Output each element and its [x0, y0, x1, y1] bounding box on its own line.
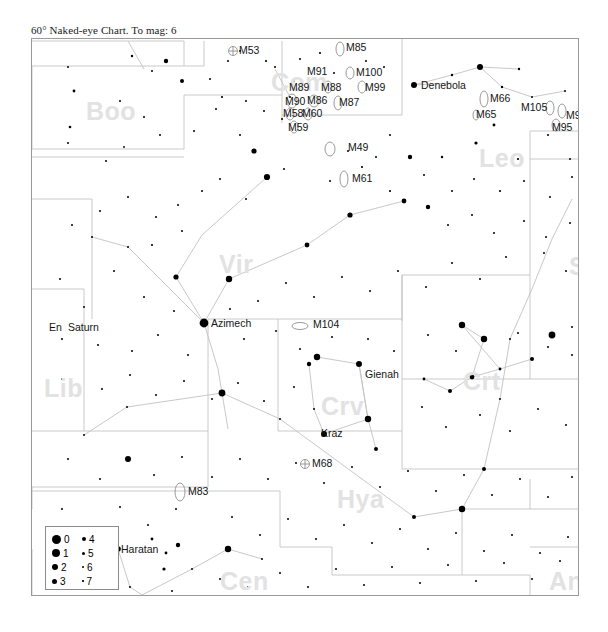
star-label-gienah: Gienah	[365, 368, 399, 380]
dso-label-m95: M95	[552, 121, 572, 133]
constellation-label-boo: Boo	[86, 97, 136, 126]
constellation-label-ant: Ant	[549, 567, 579, 596]
legend-entry-mag2: 2	[52, 562, 82, 573]
star-chart: 60° Naked-eye Chart. To mag: 6	[0, 0, 608, 632]
star-label-azimech: Azimech	[211, 317, 251, 329]
legend-dot-mag1	[52, 549, 60, 557]
constellation-label-cen: Cen	[220, 567, 269, 596]
legend-entry-mag4: 4	[82, 534, 112, 545]
dso-label-m58: M58	[283, 107, 303, 119]
legend-row: 0 4	[52, 532, 112, 546]
legend-dot-mag6	[82, 566, 84, 568]
legend-label-mag4: 4	[89, 534, 95, 545]
dso-label-m86: M86	[307, 94, 327, 106]
legend-entry-mag5: 5	[82, 548, 112, 559]
star-label-en: En	[49, 321, 62, 333]
dso-label-m91: M91	[307, 65, 327, 77]
dso-label-m89: M89	[289, 81, 309, 93]
legend-label-mag6: 6	[87, 562, 93, 573]
dso-label-m49: M49	[348, 141, 368, 153]
legend-dot-mag0	[52, 535, 61, 544]
legend-label-mag3: 3	[60, 576, 66, 587]
constellation-label-lib: Lib	[44, 374, 83, 403]
legend-row: 1 5	[52, 546, 112, 560]
legend-label-mag0: 0	[64, 534, 70, 545]
legend-dot-mag5	[82, 552, 85, 555]
legend-row: 3 7	[52, 574, 112, 588]
sky-chart-frame[interactable]: Boo Com Leo Vir Sex Lib Crt Crv Hya Cen …	[31, 38, 579, 596]
dso-label-m83: M83	[188, 485, 208, 497]
star-label-denebola: Denebola	[421, 79, 466, 91]
dso-label-m100: M100	[356, 66, 382, 78]
dso-label-m65: M65	[476, 108, 496, 120]
legend-entry-mag6: 6	[82, 562, 112, 573]
legend-entry-mag3: 3	[52, 576, 82, 587]
page-title: 60° Naked-eye Chart. To mag: 6	[31, 24, 177, 36]
legend-label-mag2: 2	[61, 562, 67, 573]
constellation-label-vir: Vir	[219, 250, 253, 279]
star-label-saturn: Saturn	[68, 321, 99, 333]
dso-label-m87: M87	[339, 96, 359, 108]
sky-canvas[interactable]: Boo Com Leo Vir Sex Lib Crt Crv Hya Cen …	[32, 39, 578, 595]
dso-label-m59: M59	[288, 121, 308, 133]
constellation-label-leo: Leo	[479, 144, 525, 173]
dso-label-m60: M60	[302, 107, 322, 119]
constellation-label-crv: Crv	[321, 392, 364, 421]
legend-dot-mag2	[52, 564, 58, 570]
star-label-kraz: Kraz	[321, 427, 343, 439]
dso-label-m104: M104	[313, 318, 339, 330]
legend-entry-mag1: 1	[52, 548, 82, 559]
legend-dot-mag3	[52, 579, 57, 584]
constellation-label-crt: Crt	[463, 367, 501, 396]
legend-entry-mag7: 7	[82, 576, 112, 587]
dso-label-m61: M61	[352, 172, 372, 184]
legend-row: 2 6	[52, 560, 112, 574]
legend-label-mag5: 5	[88, 548, 94, 559]
legend-label-mag1: 1	[63, 548, 69, 559]
dso-label-m68: M68	[312, 457, 332, 469]
legend-label-mag7: 7	[87, 576, 93, 587]
dso-label-m85: M85	[346, 41, 366, 53]
dso-label-m96: M96	[566, 109, 579, 121]
dso-label-m105: M105	[521, 101, 547, 113]
legend-dot-mag7	[82, 580, 84, 582]
magnitude-legend: 0 4 1 5	[45, 526, 119, 590]
dso-label-m99: M99	[365, 81, 385, 93]
legend-entry-mag0: 0	[52, 534, 82, 545]
star-label-haratan: Haratan	[121, 543, 158, 555]
legend-dot-mag4	[82, 537, 86, 541]
dso-label-m66: M66	[490, 92, 510, 104]
dso-label-m88: M88	[321, 81, 341, 93]
constellation-label-sex: Sex	[569, 252, 579, 281]
constellation-label-hya: Hya	[337, 485, 384, 514]
dso-label-m53: M53	[239, 44, 259, 56]
dso-label-m90: M90	[285, 95, 305, 107]
